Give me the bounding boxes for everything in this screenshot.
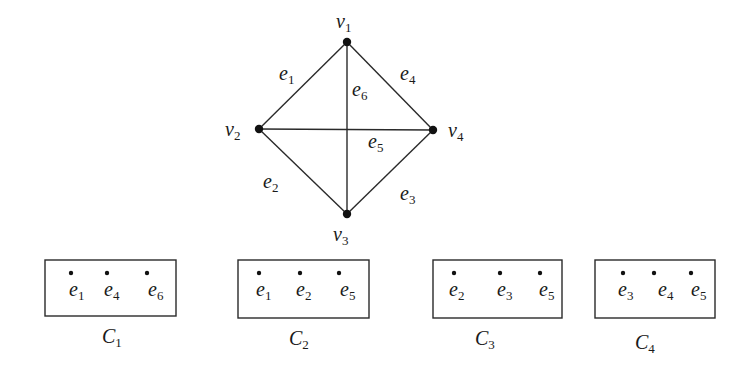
member-label: e1 [256, 278, 271, 303]
member-label: e1 [69, 278, 84, 303]
member-label: e6 [148, 278, 164, 303]
member-dot [337, 271, 341, 275]
edge-e5 [259, 129, 433, 130]
member-label: e5 [340, 278, 355, 303]
member-dot [105, 271, 109, 275]
clique-caption: C4 [635, 331, 655, 356]
graph-figure: e1e2e3e4e5e6 v1v2v3v4 e1e4e6C1e1e2e5C2e2… [0, 0, 753, 379]
edge-e1 [259, 42, 347, 129]
member-dot [621, 271, 625, 275]
member-label: e5 [691, 278, 706, 303]
edge-label-e4: e4 [400, 62, 416, 87]
edge-e2 [259, 129, 347, 214]
clique-C1: e1e4e6C1 [45, 260, 176, 350]
clique-C3: e2e3e5C3 [433, 260, 562, 352]
member-dot [452, 271, 456, 275]
edge-label-e2: e2 [263, 170, 278, 195]
vertex-v4 [429, 126, 437, 134]
clique-boxes: e1e4e6C1e1e2e5C2e2e3e5C3e3e4e5C4 [45, 260, 715, 356]
edge-label-e3: e3 [400, 182, 415, 207]
vertex-v1 [343, 38, 351, 46]
member-label: e3 [497, 278, 512, 303]
edge-label-e5: e5 [368, 130, 383, 155]
vertex-label-v1: v1 [336, 10, 351, 35]
member-label: e4 [658, 278, 674, 303]
member-label: e4 [104, 278, 120, 303]
edge-e3 [347, 130, 433, 214]
member-label: e3 [618, 278, 633, 303]
member-dot [498, 271, 502, 275]
member-dot [538, 271, 542, 275]
member-dot [689, 271, 693, 275]
vertex-label-v2: v2 [225, 118, 240, 143]
member-dot [257, 271, 261, 275]
clique-caption: C3 [475, 327, 495, 352]
edge-label-e1: e1 [279, 62, 294, 87]
clique-caption: C2 [289, 327, 309, 352]
member-label: e5 [539, 278, 554, 303]
member-dot [652, 271, 656, 275]
vertex-v3 [343, 210, 351, 218]
vertex-label-v3: v3 [333, 223, 348, 248]
clique-caption: C1 [102, 325, 122, 350]
clique-C4: e3e4e5C4 [595, 260, 715, 356]
vertex-label-v4: v4 [448, 119, 464, 144]
member-label: e2 [449, 278, 464, 303]
member-dot [298, 271, 302, 275]
member-dot [69, 271, 73, 275]
vertex-v2 [255, 125, 263, 133]
member-label: e2 [296, 278, 311, 303]
member-dot [145, 271, 149, 275]
clique-C2: e1e2e5C2 [238, 260, 369, 352]
edge-labels: e1e2e3e4e5e6 [263, 62, 416, 207]
edge-label-e6: e6 [352, 78, 368, 103]
